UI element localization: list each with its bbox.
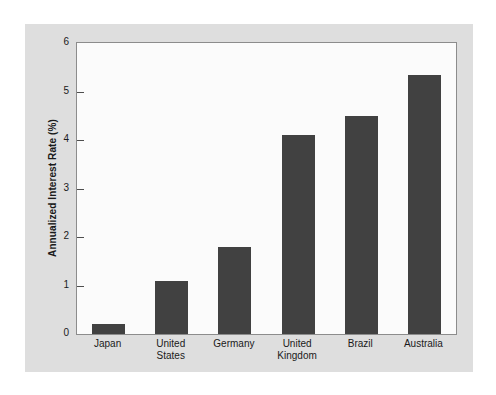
y-axis-tick-label: 1 xyxy=(47,280,69,290)
bar-united-kingdom xyxy=(282,135,315,334)
figure-panel: Annualized Interest Rate (%) 0123456 Jap… xyxy=(25,24,473,372)
bar-united-states xyxy=(155,281,188,334)
bar-brazil xyxy=(345,116,378,334)
y-axis-tick-label: 0 xyxy=(47,328,69,338)
bar-series xyxy=(77,43,456,334)
y-axis-tick-label: 2 xyxy=(47,231,69,241)
bar-japan xyxy=(92,324,125,334)
y-axis-tick-label: 6 xyxy=(47,37,69,47)
y-axis-tick-label: 5 xyxy=(47,86,69,96)
y-axis-tick-label: 4 xyxy=(47,134,69,144)
chart-figure: Annualized Interest Rate (%) 0123456 Jap… xyxy=(0,0,496,395)
bar-australia xyxy=(408,75,441,334)
x-axis-tick-label: Australia xyxy=(383,338,463,350)
bar-germany xyxy=(218,247,251,334)
y-axis-tick-label: 3 xyxy=(47,183,69,193)
plot-area xyxy=(76,42,457,335)
